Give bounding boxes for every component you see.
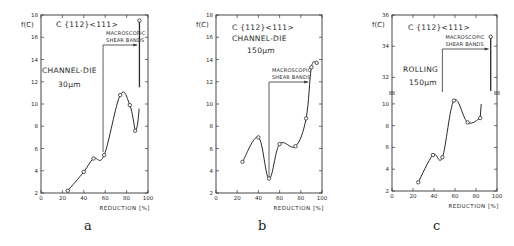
y-tick-label: 12 <box>31 79 38 85</box>
data-curve-tail <box>135 109 139 131</box>
annotation-process: CHANNEL-DIE <box>232 34 287 43</box>
data-point <box>431 153 434 156</box>
y-tick-label: 8 <box>386 123 390 129</box>
data-point <box>138 19 141 22</box>
y-tick-label: 4 <box>386 166 390 172</box>
data-point <box>441 156 444 159</box>
y-tick-label: 8 <box>35 123 39 129</box>
shear-band-label-2: SHEAR BANDS <box>445 41 483 47</box>
data-curve <box>418 100 480 183</box>
y-tick-label: 36 <box>382 12 389 18</box>
data-point <box>102 153 105 156</box>
arrow-head-icon <box>485 48 489 51</box>
y-tick-label: 10 <box>31 101 38 107</box>
y-tick-label: 6 <box>35 146 39 152</box>
x-tick-label: 20 <box>59 195 66 201</box>
x-axis-label: REDUCTION [%] <box>448 203 499 209</box>
x-tick-label: 80 <box>123 195 130 201</box>
annotation-grain-size: 30µm <box>58 80 81 89</box>
x-tick-label: 60 <box>102 195 109 201</box>
chart-panel-b: 02040608010024681012141618f(C)REDUCTION … <box>196 12 328 211</box>
x-tick-label: 40 <box>80 195 87 201</box>
data-point <box>466 121 469 124</box>
x-tick-label: 20 <box>234 195 241 201</box>
panel-label-a: a <box>84 218 92 233</box>
data-point <box>479 116 482 119</box>
arrow-head-icon <box>133 44 137 47</box>
y-tick-label: 2 <box>210 190 214 196</box>
x-tick-label: 100 <box>492 193 503 199</box>
data-point <box>92 157 95 160</box>
x-axis-label: REDUCTION [%] <box>99 205 150 211</box>
y-tick-label: 12 <box>206 79 213 85</box>
x-tick-label: 100 <box>143 195 154 201</box>
chart-title: C {112}<111> <box>408 23 470 32</box>
y-tick-label: 18 <box>31 12 38 18</box>
data-point <box>82 170 85 173</box>
y-tick-label: 18 <box>206 12 213 18</box>
y-tick-label: 6 <box>386 144 390 150</box>
data-point <box>452 99 455 102</box>
shear-band-label-2: SHEAR BANDS <box>106 37 144 43</box>
chart-panel-a: 02040608010024681012141618f(C)REDUCTION … <box>21 12 154 211</box>
data-point <box>241 160 244 163</box>
y-tick-label: 4 <box>210 168 214 174</box>
x-tick-label: 0 <box>390 193 394 199</box>
data-point <box>315 61 318 64</box>
y-tick-label: 14 <box>206 57 213 63</box>
data-curve-tail <box>480 104 481 118</box>
y-axis-label: f(C) <box>372 21 385 29</box>
y-tick-label: 10 <box>382 101 389 107</box>
data-point <box>257 136 260 139</box>
x-tick-label: 60 <box>276 195 283 201</box>
x-tick-label: 80 <box>297 195 304 201</box>
arrow-head-icon <box>304 81 308 84</box>
shear-band-label-2: SHEAR BANDS <box>272 74 310 80</box>
data-point <box>294 145 297 148</box>
x-tick-label: 0 <box>39 195 43 201</box>
y-tick-label: 2 <box>386 188 390 194</box>
y-tick-label: 34 <box>382 43 389 49</box>
data-curve <box>68 92 135 191</box>
shear-band-label-1: MACROSCOPIC <box>272 67 312 73</box>
data-point <box>417 181 420 184</box>
x-tick-label: 20 <box>410 193 417 199</box>
x-tick-label: 40 <box>431 193 438 199</box>
shear-band-label-1: MACROSCOPIC <box>445 34 485 40</box>
y-tick-label: 6 <box>210 146 214 152</box>
x-tick-label: 0 <box>214 195 218 201</box>
y-tick-label: 16 <box>206 34 213 40</box>
x-tick-label: 40 <box>255 195 262 201</box>
figure-canvas: 02040608010024681012141618f(C)REDUCTION … <box>0 0 514 246</box>
data-point <box>489 35 492 38</box>
data-point <box>66 189 69 192</box>
annotation-process: CHANNEL-DIE <box>42 66 97 75</box>
y-tick-label: 16 <box>31 34 38 40</box>
data-point <box>310 66 313 69</box>
panel-label-b: b <box>258 218 266 233</box>
chart-title: C {112}<111> <box>232 23 294 32</box>
y-tick-label: 8 <box>210 123 214 129</box>
chart-title: C {112}<111> <box>56 20 118 29</box>
y-tick-label: 32 <box>382 74 389 80</box>
x-tick-label: 60 <box>452 193 459 199</box>
x-tick-label: 100 <box>317 195 328 201</box>
data-point <box>133 129 136 132</box>
y-tick-label: 4 <box>35 168 39 174</box>
x-axis-label: REDUCTION [%] <box>273 205 324 211</box>
x-tick-label: 80 <box>473 193 480 199</box>
y-tick-label: 10 <box>206 101 213 107</box>
data-point <box>118 93 121 96</box>
y-tick-label: 14 <box>31 57 38 63</box>
data-point <box>278 142 281 145</box>
y-axis-label: f(C) <box>196 21 209 29</box>
data-point <box>128 103 131 106</box>
annotation-grain-size: 150µm <box>247 46 275 55</box>
y-axis-label: f(C) <box>21 21 34 29</box>
y-tick-label: 2 <box>35 190 39 196</box>
data-point <box>304 117 307 120</box>
data-point <box>267 177 270 180</box>
annotation-grain-size: 150µm <box>409 78 437 87</box>
annotation-process: ROLLING <box>403 65 438 74</box>
panel-label-c: c <box>433 218 440 233</box>
